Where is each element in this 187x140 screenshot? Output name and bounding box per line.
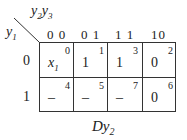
- col-header-11: 1 1: [115, 27, 134, 43]
- cell-7: – 7: [108, 78, 142, 113]
- row-header-1: 1: [23, 89, 30, 105]
- col-header-10: 10: [151, 27, 166, 43]
- kmap-grid: x1 0 1 1 1 3 0 2 – 4 – 5 – 7 0 6: [39, 42, 176, 112]
- cell-3: 1 3: [108, 43, 142, 78]
- column-variable-label: y2y3: [31, 3, 52, 21]
- cell-6: 0 6: [143, 78, 177, 113]
- col-header-00: 0 0: [47, 27, 66, 43]
- row-header-0: 0: [23, 53, 30, 69]
- cell-4: – 4: [40, 78, 74, 113]
- cell-0: x1 0: [40, 43, 74, 78]
- cell-2: 0 2: [143, 43, 177, 78]
- row-variable-label: y1: [6, 24, 17, 42]
- cell-5: – 5: [74, 78, 108, 113]
- cell-1: 1 1: [74, 43, 108, 78]
- map-caption: Dy2: [92, 118, 115, 137]
- cell-value: x1: [48, 55, 59, 73]
- col-header-01: 0 1: [81, 27, 100, 43]
